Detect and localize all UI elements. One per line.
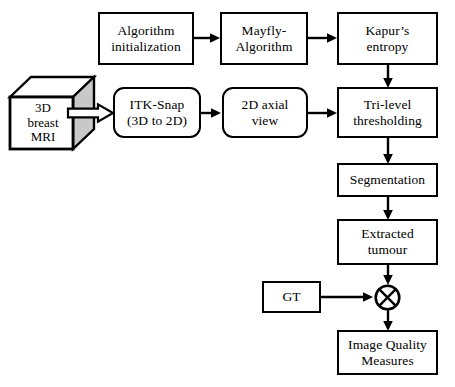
edge-mri-source-to-itk-snap [68,103,116,123]
node-tri-level-thresholding[interactable]: Tri-level thresholding [337,87,438,138]
node-kapurs-entropy-label: Kapur’s entropy [341,23,434,55]
edge-ground-truth-to-comparison-operator [320,289,375,305]
node-segmentation[interactable]: Segmentation [337,163,438,197]
cube-front-face [10,97,73,149]
node-extracted-tumour[interactable]: Extracted tumour [337,219,438,265]
node-ground-truth-label: GT [266,289,317,305]
node-comparison-operator[interactable] [373,283,402,312]
node-itk-snap[interactable]: ITK-Snap (3D to 2D) [113,87,201,138]
edge-axial-view-to-tri-level-thresholding [308,105,339,121]
edge-algorithm-initialization-to-mayfly-algorithm [194,30,222,46]
edge-mayfly-algorithm-to-kapurs-entropy [308,30,339,46]
edge-tri-level-thresholding-to-segmentation [380,137,396,165]
node-mayfly-algorithm-label: Mayfly- Algorithm [224,23,304,55]
edge-itk-snap-to-axial-view [201,105,223,121]
node-algorithm-initialization-label: Algorithm initialization [102,23,190,55]
edge-comparison-operator-to-image-quality-measures [380,310,396,332]
node-kapurs-entropy[interactable]: Kapur’s entropy [337,12,438,65]
node-image-quality-measures[interactable]: Image Quality Measures [337,330,438,375]
node-mayfly-algorithm[interactable]: Mayfly- Algorithm [220,12,308,65]
edge-extracted-tumour-to-comparison-operator [380,264,396,286]
node-algorithm-initialization[interactable]: Algorithm initialization [98,12,194,65]
node-itk-snap-label: ITK-Snap (3D to 2D) [117,97,197,129]
node-ground-truth[interactable]: GT [262,281,321,313]
edge-segmentation-to-extracted-tumour [380,196,396,221]
node-image-quality-measures-label: Image Quality Measures [341,337,434,369]
node-segmentation-label: Segmentation [341,172,434,188]
edge-kapurs-entropy-to-tri-level-thresholding [380,64,396,89]
node-tri-level-thresholding-label: Tri-level thresholding [341,97,434,129]
node-axial-view-label: 2D axial view [226,97,304,129]
flowchart-canvas: Algorithm initialization Mayfly- Algorit… [0,0,455,387]
node-extracted-tumour-label: Extracted tumour [341,226,434,258]
block-arrow-shape [68,104,113,121]
node-axial-view[interactable]: 2D axial view [222,87,308,138]
